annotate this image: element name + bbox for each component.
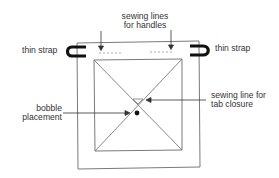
- label-line: tab closure: [211, 100, 266, 109]
- label-text: thin strap: [215, 43, 250, 53]
- bobble-dot: [135, 111, 140, 116]
- thin-strap-left-label: thin strap: [22, 46, 57, 55]
- bobble-placement-label: bobble placement: [10, 104, 62, 122]
- arrow-icon: [99, 30, 174, 51]
- label-text: thin strap: [22, 45, 57, 55]
- label-line: for handles: [112, 21, 178, 30]
- sewing-lines-handles-label: sewing lines for handles: [112, 12, 178, 30]
- tab-closure-arrow-icon: [146, 98, 206, 103]
- bobble-arrow-icon: [63, 111, 130, 116]
- tab-closure-label: sewing line for tab closure: [211, 91, 266, 109]
- thin-strap-right-label: thin strap: [215, 44, 250, 53]
- label-line: placement: [10, 113, 62, 122]
